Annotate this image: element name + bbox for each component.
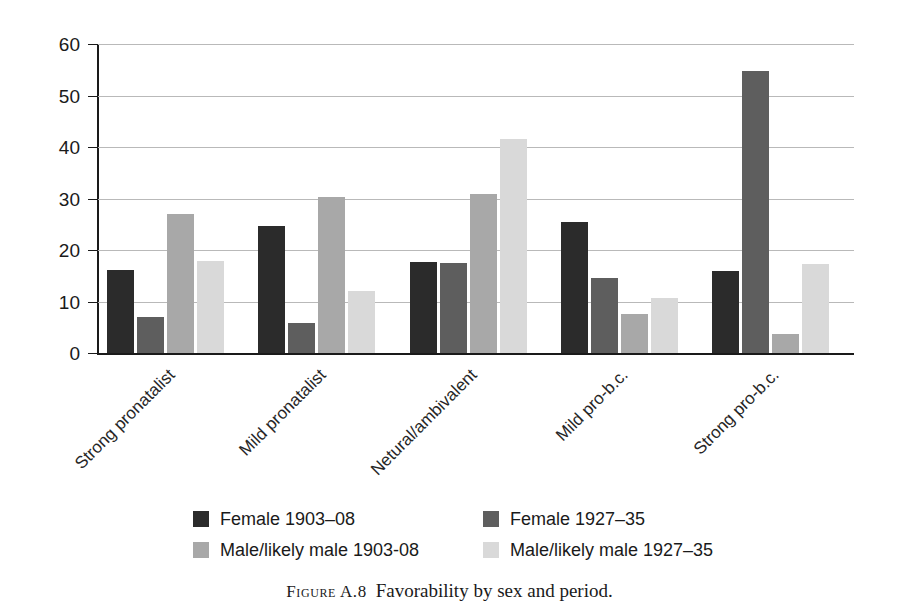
y-axis-tick-mark (88, 353, 97, 354)
chart-legend: Female 1903–08Female 1927–35Male/likely … (193, 503, 773, 565)
bar (742, 71, 769, 353)
y-axis-tick-label: 30 (40, 190, 80, 209)
bar (167, 214, 194, 353)
legend-label: Male/likely male 1927–35 (510, 541, 713, 559)
legend-swatch (193, 511, 209, 527)
bar (470, 194, 497, 353)
y-axis-tick-mark (88, 44, 97, 45)
legend-label: Female 1927–35 (510, 510, 645, 528)
bar-group (561, 44, 678, 353)
bar (410, 262, 437, 353)
bar (621, 314, 648, 353)
y-axis-tick-label: 60 (40, 35, 80, 54)
figure-caption-tag: Figure A.8 (286, 582, 366, 601)
y-axis-tick-labels: 0102030405060 (34, 0, 80, 614)
bar (500, 139, 527, 353)
y-axis-tick-mark (88, 250, 97, 251)
bar (440, 263, 467, 353)
y-axis-tick-label: 40 (40, 138, 80, 157)
bar (591, 278, 618, 353)
legend-swatch (483, 542, 499, 558)
bar (288, 323, 315, 353)
bar (712, 271, 739, 353)
y-axis-tick-mark (88, 147, 97, 148)
bar (258, 226, 285, 353)
legend-item: Female 1903–08 (193, 510, 483, 528)
bar (137, 317, 164, 353)
figure-caption-text: Favorability by sex and period. (376, 580, 613, 601)
x-axis-category-label: Strong pronatalist (0, 366, 178, 590)
bar (772, 334, 799, 353)
bar (107, 270, 134, 353)
legend-item: Male/likely male 1903-08 (193, 541, 483, 559)
bar-group (258, 44, 375, 353)
legend-label: Female 1903–08 (220, 510, 355, 528)
bar (651, 298, 678, 353)
bar (318, 197, 345, 353)
y-axis-tick-label: 0 (40, 344, 80, 363)
legend-swatch (483, 511, 499, 527)
y-axis-tick-mark (88, 302, 97, 303)
y-axis-tick-label: 10 (40, 293, 80, 312)
figure-container: 0102030405060 Strong pronatalistMild pro… (0, 0, 899, 614)
legend-label: Male/likely male 1903-08 (220, 541, 419, 559)
y-axis-tick-label: 50 (40, 87, 80, 106)
bar (348, 291, 375, 353)
y-axis-tick-mark (88, 96, 97, 97)
legend-swatch (193, 542, 209, 558)
bar-group (107, 44, 224, 353)
plot-area (98, 44, 854, 353)
x-axis-line (97, 353, 854, 355)
bar (197, 261, 224, 353)
bar (561, 222, 588, 353)
y-axis-tick-mark (88, 199, 97, 200)
bar-group (410, 44, 527, 353)
legend-item: Male/likely male 1927–35 (483, 541, 773, 559)
bar (802, 264, 829, 353)
y-axis-tick-label: 20 (40, 241, 80, 260)
legend-item: Female 1927–35 (483, 510, 773, 528)
figure-caption: Figure A.8Favorability by sex and period… (0, 580, 899, 602)
bar-group (712, 44, 829, 353)
